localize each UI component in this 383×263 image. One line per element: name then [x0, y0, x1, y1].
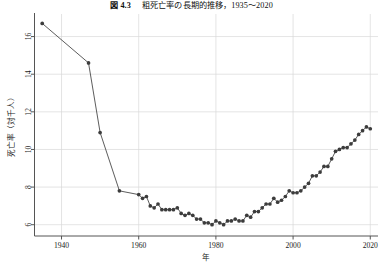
data-point — [202, 221, 206, 225]
data-point — [218, 221, 222, 225]
data-point — [253, 210, 257, 214]
data-point — [141, 197, 145, 201]
data-point — [260, 206, 264, 210]
data-point — [334, 149, 338, 153]
data-point — [295, 191, 299, 195]
data-point — [318, 170, 322, 174]
data-point — [172, 208, 176, 212]
data-point — [268, 202, 272, 206]
figure-container: 図 4.3 粗死亡率の長期的推移，1935〜2020 6810121416194… — [0, 0, 383, 263]
data-points — [40, 22, 372, 227]
data-point — [206, 221, 210, 225]
data-point — [245, 213, 249, 217]
data-line — [42, 23, 370, 224]
data-point — [87, 61, 91, 65]
data-point — [195, 217, 199, 221]
data-point — [148, 204, 152, 208]
data-point — [183, 213, 187, 217]
x-tick-label: 1980 — [208, 241, 223, 250]
data-point — [291, 191, 295, 195]
data-point — [98, 131, 102, 135]
data-point — [287, 189, 291, 193]
data-point — [322, 165, 326, 169]
y-tick-label: 12 — [24, 108, 33, 116]
data-point — [311, 174, 315, 178]
data-point — [341, 146, 345, 150]
y-tick-label: 14 — [24, 70, 33, 78]
data-point — [233, 217, 237, 221]
line-chart: 681012141619401960198020002020 死亡率（対千人） … — [0, 0, 383, 263]
data-point — [199, 217, 203, 221]
data-point — [241, 219, 245, 223]
x-axis-title: 年 — [202, 252, 210, 262]
data-point — [164, 208, 168, 212]
data-point — [303, 185, 307, 189]
axis-ticks — [31, 37, 370, 240]
data-point — [264, 202, 268, 206]
data-point — [272, 197, 276, 201]
y-tick-label: 16 — [24, 33, 33, 41]
x-tick-label: 2020 — [363, 241, 378, 250]
data-point — [226, 219, 230, 223]
data-point — [349, 142, 353, 146]
data-point — [222, 223, 226, 227]
data-point — [237, 219, 241, 223]
data-point — [345, 146, 349, 150]
data-point — [168, 208, 172, 212]
data-point — [229, 219, 233, 223]
data-point — [307, 181, 311, 185]
data-point — [145, 195, 149, 199]
data-point — [175, 206, 179, 210]
data-point — [137, 193, 141, 197]
data-point — [276, 200, 280, 204]
data-point — [299, 189, 303, 193]
data-point — [152, 206, 156, 210]
axis-lines — [35, 13, 379, 236]
data-point — [210, 223, 214, 227]
data-point — [326, 165, 330, 169]
data-point — [156, 202, 160, 206]
data-point — [191, 213, 195, 217]
y-axis-title: 死亡率（対千人） — [6, 93, 16, 157]
data-point — [280, 198, 284, 202]
data-point — [118, 189, 122, 193]
data-point — [40, 22, 44, 26]
y-tick-label: 8 — [24, 185, 33, 189]
data-point — [338, 148, 342, 152]
y-tick-label: 6 — [24, 223, 33, 227]
data-point — [314, 174, 318, 178]
data-point — [365, 125, 369, 129]
data-point — [330, 157, 334, 161]
data-point — [214, 219, 218, 223]
data-point — [257, 210, 261, 214]
gridlines — [35, 14, 379, 236]
x-tick-label: 1940 — [54, 241, 69, 250]
data-point — [353, 138, 357, 142]
data-point — [368, 127, 372, 131]
x-tick-label: 1960 — [131, 241, 146, 250]
x-tick-label: 2000 — [285, 241, 300, 250]
data-point — [179, 212, 183, 216]
y-tick-label: 10 — [24, 145, 33, 153]
data-point — [361, 129, 365, 133]
data-point — [284, 195, 288, 199]
data-point — [160, 208, 164, 212]
data-point — [357, 133, 361, 137]
data-point — [249, 215, 253, 219]
data-point — [187, 212, 191, 216]
